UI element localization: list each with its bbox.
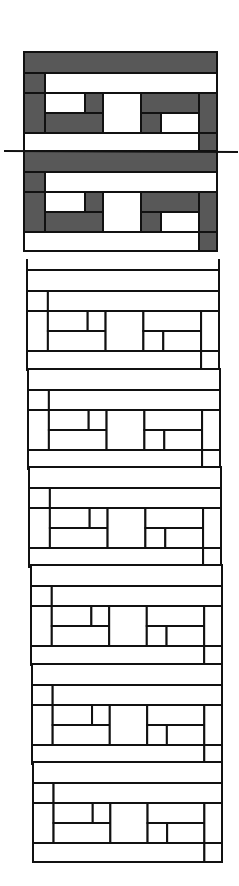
left-column <box>32 705 53 745</box>
top-band <box>24 52 217 73</box>
left-top-block <box>45 192 85 212</box>
right-bottom-block <box>165 528 203 548</box>
top-band <box>27 270 219 291</box>
top-band <box>32 664 222 685</box>
left-small-cell <box>31 586 52 606</box>
left-small-block <box>91 606 109 626</box>
right-column <box>199 192 217 232</box>
left-top-block <box>50 508 90 528</box>
right-small-block <box>143 331 163 351</box>
top-band <box>31 565 222 586</box>
right-corner-cell <box>199 133 217 152</box>
right-top-block <box>144 410 202 430</box>
left-small-block <box>85 192 103 212</box>
right-top-block <box>141 93 199 113</box>
bottom-band <box>27 351 201 370</box>
center-block <box>110 705 147 745</box>
right-column <box>204 606 222 646</box>
right-bottom-block <box>164 430 202 450</box>
second-band <box>50 488 221 508</box>
right-small-block <box>147 626 167 646</box>
pattern-unit <box>28 369 220 469</box>
center-block <box>103 192 141 232</box>
bottom-band <box>24 133 199 152</box>
right-column <box>201 311 219 351</box>
left-top-block <box>45 93 85 113</box>
left-bottom-block <box>54 823 111 843</box>
right-column <box>204 803 222 843</box>
pattern-unit <box>29 467 221 567</box>
right-corner-cell <box>199 232 217 251</box>
pattern-unit <box>24 52 217 152</box>
left-small-block <box>89 410 107 430</box>
second-band <box>45 73 217 93</box>
right-top-block <box>143 311 201 331</box>
pattern-unit <box>27 270 219 370</box>
bottom-band <box>31 646 204 665</box>
left-bottom-block <box>52 626 109 646</box>
center-block <box>110 803 147 843</box>
left-top-block <box>52 606 92 626</box>
bottom-band <box>33 843 204 862</box>
right-bottom-block <box>167 823 204 843</box>
left-small-cell <box>24 172 45 192</box>
left-top-block <box>54 803 93 823</box>
right-top-block <box>145 508 203 528</box>
left-small-cell <box>24 73 45 93</box>
right-small-block <box>145 528 165 548</box>
center-block <box>107 410 145 450</box>
top-band <box>33 762 222 783</box>
right-small-block <box>144 430 164 450</box>
bottom-band <box>24 232 199 251</box>
outline-section <box>27 259 222 862</box>
left-small-block <box>85 93 103 113</box>
left-small-block <box>90 508 108 528</box>
left-column <box>29 508 50 548</box>
top-band <box>29 467 221 488</box>
top-band <box>28 369 220 390</box>
right-bottom-block <box>167 725 204 745</box>
left-small-block <box>93 803 111 823</box>
left-bottom-block <box>45 113 103 133</box>
right-corner-cell <box>201 351 219 370</box>
left-column <box>27 311 48 351</box>
center-block <box>106 311 144 351</box>
left-bottom-block <box>45 212 103 232</box>
right-bottom-block <box>167 626 205 646</box>
right-column <box>204 705 222 745</box>
center-block <box>108 508 146 548</box>
right-bottom-block <box>161 113 199 133</box>
right-bottom-block <box>163 331 201 351</box>
left-top-block <box>49 410 89 430</box>
second-band <box>53 685 222 705</box>
left-bottom-block <box>48 331 106 351</box>
right-small-block <box>147 725 167 745</box>
pattern-diagram <box>0 0 239 886</box>
right-column <box>199 93 217 133</box>
second-band <box>54 783 222 803</box>
center-block <box>109 606 147 646</box>
right-corner-cell <box>204 843 222 862</box>
second-band <box>49 390 220 410</box>
top-band <box>24 151 217 172</box>
left-column <box>24 192 45 232</box>
left-small-cell <box>27 291 48 311</box>
right-bottom-block <box>161 212 199 232</box>
left-bottom-block <box>53 725 110 745</box>
cut-line <box>4 151 238 152</box>
second-band <box>48 291 219 311</box>
left-column <box>31 606 52 646</box>
left-column <box>33 803 54 843</box>
pattern-unit <box>24 151 217 251</box>
left-small-cell <box>32 685 53 705</box>
second-band <box>52 586 222 606</box>
pattern-unit <box>32 664 222 764</box>
left-small-cell <box>28 390 49 410</box>
pattern-unit <box>31 565 222 665</box>
left-column <box>28 410 49 450</box>
second-band <box>45 172 217 192</box>
right-column <box>203 508 221 548</box>
left-top-block <box>48 311 88 331</box>
right-top-block <box>148 803 205 823</box>
left-top-block <box>53 705 92 725</box>
